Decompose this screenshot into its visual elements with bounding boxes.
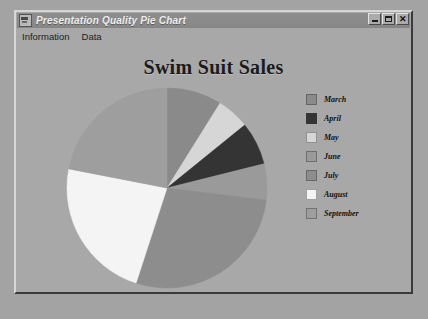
legend-swatch-icon [306, 113, 317, 124]
close-button[interactable]: ✕ [396, 13, 409, 25]
application-window: Presentation Quality Pie Chart ✕ Informa… [14, 10, 413, 294]
desktop-background: Presentation Quality Pie Chart ✕ Informa… [0, 0, 428, 319]
legend-item-label: September [324, 209, 359, 218]
legend-item-label: June [324, 152, 340, 161]
legend-swatch-icon [306, 189, 317, 200]
legend-item-label: July [324, 171, 338, 180]
legend-item-label: April [324, 114, 341, 123]
legend-swatch-icon [306, 151, 317, 162]
legend-item[interactable]: March [306, 90, 359, 109]
legend-swatch-icon [306, 94, 317, 105]
legend-swatch-icon [306, 208, 317, 219]
legend-item-label: August [324, 190, 348, 199]
legend-swatch-icon [306, 132, 317, 143]
menu-bar: Information Data [17, 29, 410, 43]
legend-item[interactable]: April [306, 109, 359, 128]
legend-item[interactable]: June [306, 147, 359, 166]
minimize-button[interactable] [368, 13, 381, 25]
legend-item[interactable]: August [306, 185, 359, 204]
legend-item[interactable]: May [306, 128, 359, 147]
legend-item-label: March [324, 95, 346, 104]
legend-item-label: May [324, 133, 339, 142]
pie-chart-svg [66, 87, 268, 289]
menu-item-data[interactable]: Data [80, 31, 108, 42]
legend-item[interactable]: July [306, 166, 359, 185]
legend-swatch-icon [306, 170, 317, 181]
window-controls: ✕ [368, 13, 409, 25]
window-title: Presentation Quality Pie Chart [36, 15, 186, 26]
legend-item[interactable]: September [306, 204, 359, 223]
window-titlebar[interactable]: Presentation Quality Pie Chart ✕ [17, 13, 410, 28]
maximize-button[interactable] [382, 13, 395, 25]
menu-item-information[interactable]: Information [20, 31, 76, 42]
app-chart-icon [19, 14, 32, 27]
chart-canvas: Swim Suit Sales MarchAprilMayJuneJulyAug… [17, 42, 410, 291]
chart-legend: MarchAprilMayJuneJulyAugustSeptember [306, 90, 359, 223]
